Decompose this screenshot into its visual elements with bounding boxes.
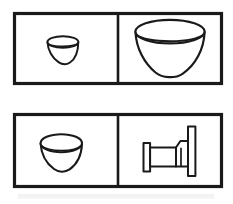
top-right-cell xyxy=(135,20,204,77)
large-bowl-rim xyxy=(135,20,204,44)
top-left-cell xyxy=(48,36,79,64)
top-panel xyxy=(15,14,222,84)
medium-bowl-sketch xyxy=(41,134,82,171)
bed-sketch xyxy=(144,127,196,177)
bottom-left-cell xyxy=(41,134,82,171)
bottom-right-cell xyxy=(144,127,196,177)
figure-canvas: Object line drawings comparison grid xyxy=(0,0,233,204)
bed-headboard xyxy=(188,127,195,177)
bottom-panel xyxy=(15,115,222,187)
bed-pillow xyxy=(176,141,188,167)
line-drawing-figure: Object line drawings comparison grid xyxy=(0,0,233,204)
large-bowl-sketch xyxy=(135,20,204,77)
scan-smudge xyxy=(18,194,214,199)
bed-mattress xyxy=(150,148,176,167)
small-bowl-sketch xyxy=(48,36,79,64)
